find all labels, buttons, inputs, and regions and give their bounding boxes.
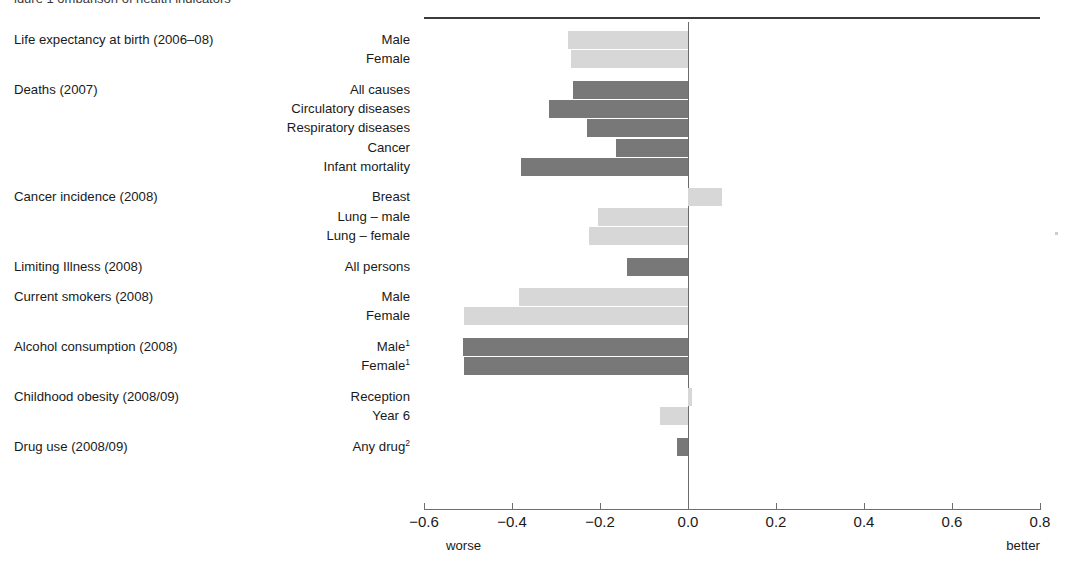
- series-label: Lung – female: [110, 228, 410, 243]
- top-rule: [424, 17, 1040, 19]
- bar: [573, 81, 688, 99]
- axis-note-worse: worse: [446, 538, 481, 553]
- bar: [463, 338, 688, 356]
- bar: [568, 31, 688, 49]
- bar: [587, 119, 688, 137]
- zero-reference-line: [688, 22, 689, 509]
- series-label-footnote: 2: [405, 438, 410, 448]
- bar: [660, 407, 688, 425]
- series-label: Female: [110, 51, 410, 66]
- series-label: Any drug2: [110, 439, 410, 454]
- bar: [521, 158, 688, 176]
- bar: [616, 139, 688, 157]
- x-tick-label: −0.6: [409, 513, 439, 530]
- x-tick-label: 0.2: [766, 513, 787, 530]
- x-tick-label: −0.2: [585, 513, 615, 530]
- x-tick: [600, 503, 601, 510]
- axis-note-better: better: [1006, 538, 1040, 553]
- series-label: Female1: [110, 358, 410, 373]
- x-axis-line: [424, 509, 1040, 510]
- x-tick-label: 0.6: [942, 513, 963, 530]
- image-speck: [1055, 232, 1058, 235]
- x-tick: [1040, 503, 1041, 510]
- series-label: Male: [110, 289, 410, 304]
- group-label: Deaths (2007): [14, 82, 98, 97]
- x-tick-label: 0.0: [678, 513, 699, 530]
- x-tick: [952, 503, 953, 510]
- bar: [688, 188, 722, 206]
- series-label: Infant mortality: [110, 159, 410, 174]
- series-label: All persons: [110, 259, 410, 274]
- bar: [549, 100, 688, 118]
- x-tick: [512, 503, 513, 510]
- bar: [571, 50, 688, 68]
- series-label: Breast: [110, 189, 410, 204]
- series-label: All causes: [110, 82, 410, 97]
- series-label: Male1: [110, 339, 410, 354]
- x-tick: [424, 503, 425, 510]
- bar: [589, 227, 688, 245]
- bar: [688, 388, 692, 406]
- series-label: Lung – male: [110, 209, 410, 224]
- x-tick: [688, 503, 689, 510]
- series-label: Year 6: [110, 408, 410, 423]
- x-tick-label: 0.4: [854, 513, 875, 530]
- series-label: Circulatory diseases: [110, 101, 410, 116]
- bar: [598, 208, 688, 226]
- x-tick: [776, 503, 777, 510]
- x-tick-label: −0.4: [497, 513, 527, 530]
- series-label-text: Female: [361, 358, 405, 373]
- bar: [464, 307, 688, 325]
- series-label: Reception: [110, 389, 410, 404]
- series-label-column: MaleFemaleAll causesCirculatory diseases…: [100, 0, 410, 579]
- figure-container: igure 1 omparison of health indicators L…: [0, 0, 1066, 579]
- series-label: Male: [110, 32, 410, 47]
- x-tick-label: 0.8: [1030, 513, 1051, 530]
- bar: [464, 357, 688, 375]
- series-label-footnote: 1: [405, 338, 410, 348]
- bar: [519, 288, 688, 306]
- plot-area: −0.6−0.4−0.20.00.20.40.60.8 worse better: [424, 0, 1040, 579]
- bar: [677, 438, 688, 456]
- series-label-text: Any drug: [352, 439, 405, 454]
- series-label: Cancer: [110, 140, 410, 155]
- series-label: Respiratory diseases: [110, 120, 410, 135]
- series-label-text: Male: [377, 339, 406, 354]
- x-tick: [864, 503, 865, 510]
- series-label: Female: [110, 308, 410, 323]
- bar: [627, 258, 688, 276]
- series-label-footnote: 1: [405, 357, 410, 367]
